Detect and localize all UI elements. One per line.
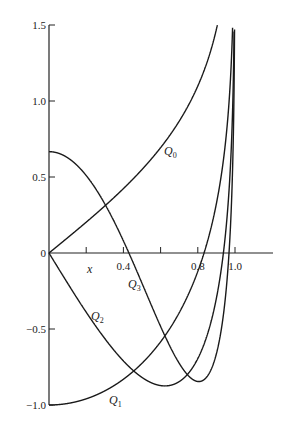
y-tick-label: 1.5 <box>32 19 46 31</box>
curve-q1 <box>49 28 233 405</box>
curve-q3 <box>49 29 235 381</box>
y-ticks: 1.51.00.50−0.5−1.0 <box>26 19 55 411</box>
q3-label: Q3 <box>128 277 141 293</box>
q0-label: Q0 <box>164 144 177 160</box>
y-tick-label: 0 <box>41 247 47 259</box>
curve-q0 <box>49 25 217 253</box>
x-ticks: 0.40.81.0 <box>86 247 242 272</box>
curve-q2 <box>49 31 234 385</box>
curves <box>49 25 235 405</box>
q2-label: Q2 <box>91 309 104 325</box>
x-tick-label: 1.0 <box>228 260 242 272</box>
chart: 1.51.00.50−0.5−1.0 0.40.81.0 x Q0 Q1 Q2 … <box>0 0 289 425</box>
x-axis-label: x <box>86 262 93 276</box>
x-tick-label: 0.4 <box>117 260 131 272</box>
y-tick-label: 1.0 <box>32 95 46 107</box>
y-tick-label: 0.5 <box>32 171 46 183</box>
q1-label: Q1 <box>109 393 122 409</box>
y-tick-label: −0.5 <box>26 323 46 335</box>
y-tick-label: −1.0 <box>26 399 46 411</box>
axes <box>49 25 273 405</box>
